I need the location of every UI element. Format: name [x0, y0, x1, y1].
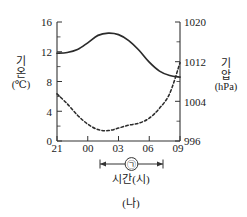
x-ticks — [57, 136, 180, 141]
figure-container: 기 온 (℃) 기 압 (hPa) 16 12 8 4 0 1020 1012 … — [0, 0, 247, 217]
x-axis-title: 시간(시) — [83, 170, 179, 186]
left-major-ticks — [57, 22, 62, 141]
span-arrow-label: ㉠ — [127, 160, 136, 170]
series-line-temperature — [57, 33, 180, 77]
figure-caption: (나) — [83, 194, 179, 210]
